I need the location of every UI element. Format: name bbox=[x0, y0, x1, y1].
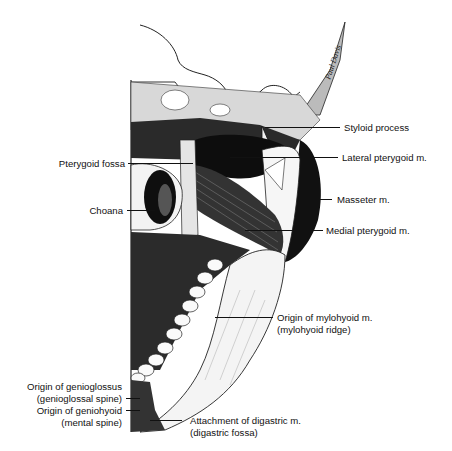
label-digastric-attachment: Attachment of digastric m. bbox=[190, 415, 301, 426]
leader-digastric bbox=[150, 420, 182, 421]
label-digastric-fossa: (digastric fossa) bbox=[190, 427, 258, 438]
label-mylohyoid-origin: Origin of mylohyoid m. bbox=[277, 312, 372, 323]
leader-medial-pterygoid bbox=[245, 230, 323, 231]
label-genioglossal-spine: (genioglossal spine) bbox=[37, 393, 122, 404]
label-lateral-pterygoid: Lateral pterygoid m. bbox=[342, 152, 427, 163]
label-mylohyoid-ridge: (mylohyoid ridge) bbox=[277, 324, 351, 335]
leader-genioglossus bbox=[126, 398, 140, 399]
anatomy-figure: Paul Davis Styloid process Lateral ptery… bbox=[0, 0, 452, 451]
label-medial-pterygoid: Medial pterygoid m. bbox=[326, 225, 410, 236]
leader-pterygoid-fossa bbox=[128, 163, 193, 164]
label-geniohyoid-origin: Origin of geniohyoid bbox=[37, 405, 122, 416]
label-styloid-process: Styloid process bbox=[344, 122, 409, 133]
label-choana: Choana bbox=[89, 205, 123, 216]
leader-masseter bbox=[305, 199, 332, 200]
leader-choana bbox=[127, 210, 155, 211]
leader-geniohyoid bbox=[126, 410, 140, 411]
leader-styloid bbox=[265, 127, 340, 128]
artist-signature: Paul Davis bbox=[323, 44, 343, 82]
label-masseter: Masseter m. bbox=[337, 194, 390, 205]
label-mental-spine: (mental spine) bbox=[61, 417, 122, 428]
leader-lateral-pterygoid bbox=[230, 157, 338, 158]
label-pterygoid-fossa: Pterygoid fossa bbox=[59, 158, 125, 169]
label-genioglossus-origin: Origin of genioglossus bbox=[27, 381, 122, 392]
leader-mylohyoid bbox=[215, 317, 273, 318]
